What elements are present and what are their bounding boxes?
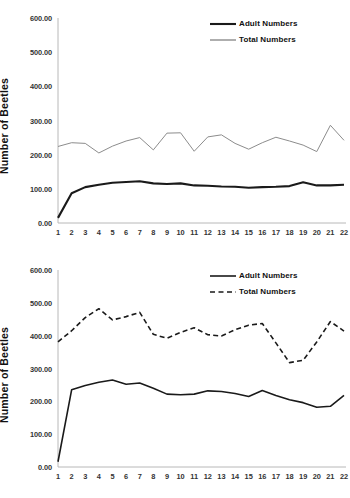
x-tick-label: 5 — [110, 472, 114, 481]
x-tick-label: 11 — [190, 228, 198, 237]
x-tick-label: 20 — [313, 472, 321, 481]
x-tick-label: 10 — [176, 228, 184, 237]
x-tick-label: 5 — [110, 228, 114, 237]
x-tick-label: 6 — [124, 228, 128, 237]
x-tick-label: 12 — [204, 228, 212, 237]
series-line-adult-numbers — [58, 181, 344, 218]
x-tick-label: 4 — [97, 472, 101, 481]
x-tick-label: 12 — [204, 472, 212, 481]
legend-item[interactable]: Adult Numbers — [210, 269, 298, 282]
axis-spine — [58, 270, 346, 467]
x-tick-label: 3 — [83, 472, 87, 481]
chart-panel-top: Number of Beetles 0.00100.00200.00300.00… — [0, 0, 350, 252]
legend-top: Adult NumbersTotal Numbers — [210, 17, 298, 49]
x-tick-label: 19 — [299, 228, 307, 237]
x-tick-label: 14 — [231, 228, 239, 237]
x-tick-label: 21 — [326, 228, 334, 237]
x-tick-label: 17 — [272, 228, 280, 237]
axis-spine — [58, 18, 346, 223]
x-tick-label: 2 — [70, 228, 74, 237]
x-tick-label: 9 — [165, 472, 169, 481]
legend-swatch-icon — [210, 20, 236, 28]
x-tick-label: 22 — [340, 228, 348, 237]
x-tick-label: 17 — [272, 472, 280, 481]
legend-swatch-icon — [210, 288, 236, 296]
x-tick-label: 16 — [258, 472, 266, 481]
x-tick-label: 13 — [217, 228, 225, 237]
series-line-total-numbers — [58, 125, 344, 153]
chart-panel-bottom: Number of Beetles 0.00100.00200.00300.00… — [0, 252, 350, 498]
x-tick-label: 11 — [190, 472, 198, 481]
x-tick-label: 7 — [138, 228, 142, 237]
x-tick-label: 8 — [151, 228, 155, 237]
legend-label: Adult Numbers — [239, 19, 298, 28]
x-tick-label: 6 — [124, 472, 128, 481]
x-tick-label: 4 — [97, 228, 101, 237]
x-tick-label: 15 — [245, 228, 253, 237]
x-tick-label: 2 — [70, 472, 74, 481]
x-tick-label: 10 — [176, 472, 184, 481]
legend-label: Total Numbers — [239, 35, 296, 44]
x-axis-ticks-top: 12345678910111213141516171819202122 — [0, 228, 350, 242]
legend-swatch-icon — [210, 36, 236, 44]
beetle-population-figure: Number of Beetles 0.00100.00200.00300.00… — [0, 0, 350, 498]
series-line-total-numbers — [58, 309, 344, 363]
legend-item[interactable]: Adult Numbers — [210, 17, 298, 30]
legend-bottom: Adult NumbersTotal Numbers — [210, 269, 298, 301]
x-tick-label: 22 — [340, 472, 348, 481]
x-tick-label: 7 — [138, 472, 142, 481]
x-tick-label: 1 — [56, 472, 60, 481]
x-tick-label: 3 — [83, 228, 87, 237]
legend-label: Adult Numbers — [239, 271, 298, 280]
x-tick-label: 19 — [299, 472, 307, 481]
x-tick-label: 20 — [313, 228, 321, 237]
x-tick-label: 18 — [285, 472, 293, 481]
x-tick-label: 9 — [165, 228, 169, 237]
series-line-adult-numbers — [58, 380, 344, 462]
x-tick-label: 21 — [326, 472, 334, 481]
legend-item[interactable]: Total Numbers — [210, 33, 298, 46]
x-tick-label: 14 — [231, 472, 239, 481]
x-tick-label: 1 — [56, 228, 60, 237]
x-axis-ticks-bottom: 12345678910111213141516171819202122 — [0, 472, 350, 486]
legend-item[interactable]: Total Numbers — [210, 285, 298, 298]
x-tick-label: 13 — [217, 472, 225, 481]
x-tick-label: 16 — [258, 228, 266, 237]
x-tick-label: 8 — [151, 472, 155, 481]
x-tick-label: 15 — [245, 472, 253, 481]
legend-swatch-icon — [210, 272, 236, 280]
legend-label: Total Numbers — [239, 287, 296, 296]
x-tick-label: 18 — [285, 228, 293, 237]
